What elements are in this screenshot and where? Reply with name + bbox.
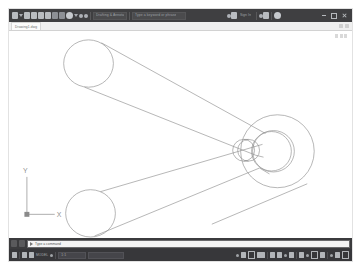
undo-icon[interactable] — [66, 12, 73, 19]
ucs-icon: Y X — [23, 167, 62, 218]
toolbar-divider-3 — [256, 12, 257, 20]
workspace-label: Drafting & Annotation — [96, 13, 124, 18]
ucs-y-label: Y — [23, 167, 28, 174]
command-line: Type a command — [9, 238, 352, 249]
chevron-down-icon[interactable] — [19, 14, 23, 17]
upper-arm-top-edge — [101, 43, 265, 134]
layout-tab-icon[interactable] — [22, 252, 27, 258]
status-divider-5 — [327, 252, 328, 259]
lower-arm-top-edge — [100, 144, 262, 191]
status-divider-4 — [296, 252, 297, 259]
lower-arm-bottom-edge — [95, 168, 260, 236]
new-icon[interactable] — [24, 12, 30, 19]
window-controls — [322, 13, 349, 19]
close-icon[interactable] — [342, 13, 347, 18]
save-icon[interactable] — [38, 12, 44, 19]
status-bar: MODEL 1:1 — [9, 249, 352, 261]
coordinate-display[interactable] — [88, 252, 124, 259]
plot-icon[interactable] — [52, 12, 58, 19]
annotation-scale-icon[interactable] — [306, 254, 309, 257]
selection-cycling-icon[interactable] — [299, 252, 304, 258]
drawing-canvas[interactable]: Y X — [9, 31, 352, 238]
search-input[interactable]: Type a keyword or phrase — [132, 12, 186, 20]
toolbar-divider-4 — [271, 12, 272, 20]
lineweight-icon[interactable] — [284, 254, 287, 257]
search-placeholder: Type a keyword or phrase — [135, 13, 176, 18]
status-divider-1 — [19, 252, 20, 259]
toolbar-divider-2 — [129, 12, 130, 20]
status-divider-3 — [267, 252, 268, 259]
document-tab[interactable]: Drawing1.dwg — [11, 22, 41, 30]
model-icon[interactable] — [345, 24, 349, 28]
open-icon[interactable] — [31, 12, 37, 19]
saveas-icon[interactable] — [45, 12, 51, 19]
hub-middle-circle — [253, 131, 295, 172]
snap-mode-icon[interactable] — [241, 252, 246, 258]
command-recent-icon[interactable] — [19, 240, 25, 247]
customization-icon[interactable] — [342, 251, 349, 259]
workspace-selector[interactable]: Drafting & Annotation — [93, 12, 127, 20]
toolbar-divider — [90, 12, 91, 20]
osnap-icon[interactable] — [270, 252, 275, 258]
command-prompt-label: Type a command — [35, 242, 61, 246]
model-geometry — [64, 40, 315, 237]
help-icon[interactable] — [274, 12, 281, 19]
autocad-window: Drafting & Annotation Type a keyword or … — [8, 8, 353, 262]
account-avatar[interactable] — [231, 12, 237, 19]
ucs-origin-marker — [24, 212, 29, 217]
hardware-accel-icon[interactable] — [320, 252, 325, 258]
transparency-icon[interactable] — [289, 252, 294, 258]
upper-arm-end-cap — [64, 40, 114, 87]
app-menu-icon[interactable] — [12, 12, 18, 19]
top-toolbar: Drafting & Annotation Type a keyword or … — [9, 9, 352, 22]
lower-outer-tangent — [212, 184, 307, 224]
signin-label[interactable]: Sign In — [240, 13, 251, 18]
workspace-switch-icon[interactable] — [311, 251, 318, 259]
scale-label: 1:1 — [61, 253, 66, 257]
command-customize-icon[interactable] — [11, 240, 17, 247]
redo-dropdown-icon[interactable] — [84, 14, 88, 18]
polar-tracking-icon[interactable] — [257, 252, 265, 258]
isolate-objects-icon[interactable] — [330, 254, 333, 257]
otrack-icon[interactable] — [277, 252, 282, 258]
upper-arm-hub-blend — [256, 155, 264, 157]
wireframe-model: Y X — [9, 31, 352, 238]
command-input[interactable]: Type a command — [27, 240, 350, 248]
tab-strip-tools — [339, 24, 349, 28]
quick-access-toolbar — [12, 12, 88, 19]
lower-arm-end-cap — [66, 190, 116, 237]
preview-icon[interactable] — [59, 12, 65, 19]
document-tab-strip: Drawing1.dwg — [9, 22, 352, 31]
document-tab-label: Drawing1.dwg — [15, 25, 37, 29]
add-layout-icon[interactable] — [50, 254, 53, 257]
clean-screen-icon[interactable] — [335, 252, 340, 258]
command-chevron-icon — [30, 242, 33, 246]
ortho-mode-icon[interactable] — [248, 251, 255, 259]
status-divider-2 — [55, 252, 56, 259]
layout-icon[interactable] — [339, 24, 343, 28]
redo-icon[interactable] — [79, 14, 83, 18]
model-space-icon[interactable] — [12, 252, 17, 258]
restore-icon[interactable] — [331, 13, 337, 19]
undo-dropdown-icon[interactable] — [74, 14, 78, 17]
autodesk-icon[interactable] — [263, 12, 269, 19]
grid-display-icon[interactable] — [236, 254, 239, 257]
hub-bore-circle — [252, 132, 292, 171]
ucs-x-label: X — [57, 211, 62, 218]
upper-arm-bottom-edge — [85, 87, 256, 155]
minimize-icon[interactable] — [322, 15, 326, 16]
model-label[interactable]: MODEL — [36, 253, 48, 257]
layout-tab-icon-2[interactable] — [29, 252, 34, 258]
scale-selector[interactable]: 1:1 — [58, 252, 86, 259]
